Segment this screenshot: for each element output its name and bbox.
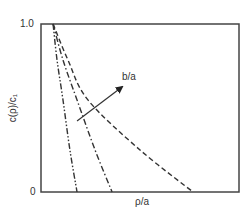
y-axis-label: c(ρ)/c₁ [7, 94, 18, 123]
series-line-3 [53, 24, 193, 192]
annotation-label: b/a [122, 71, 136, 82]
line-chart [0, 0, 250, 215]
series-line-1 [53, 24, 77, 192]
x-axis-label: ρ/a [135, 196, 149, 207]
y-tick-label-top: 1.0 [20, 18, 34, 29]
series-layer [53, 24, 193, 192]
plot-frame [41, 24, 239, 192]
series-line-2 [53, 24, 112, 192]
b-over-a-arrow-icon [77, 87, 122, 121]
y-tick-label-bottom: 0 [30, 186, 36, 197]
